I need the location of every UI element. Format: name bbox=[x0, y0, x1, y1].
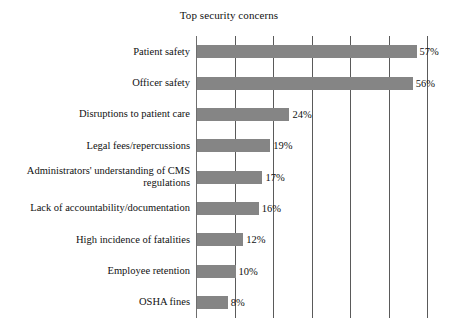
chart-title: Top security concerns bbox=[0, 9, 458, 21]
bar-value-label: 24% bbox=[292, 108, 311, 121]
bar-value-label: 12% bbox=[246, 233, 265, 246]
bar-value-label: 10% bbox=[239, 265, 258, 278]
bar-chart-figure: Top security concerns Patient safetyOffi… bbox=[0, 0, 458, 323]
value-labels-layer: 57%56%24%19%17%16%12%10%8% bbox=[0, 36, 458, 318]
bar-value-label: 16% bbox=[262, 202, 281, 215]
bar-value-label: 57% bbox=[420, 45, 439, 58]
bar-value-label: 19% bbox=[273, 139, 292, 152]
bar-value-label: 56% bbox=[416, 77, 435, 90]
bar-value-label: 8% bbox=[231, 296, 245, 309]
bar-value-label: 17% bbox=[265, 171, 284, 184]
